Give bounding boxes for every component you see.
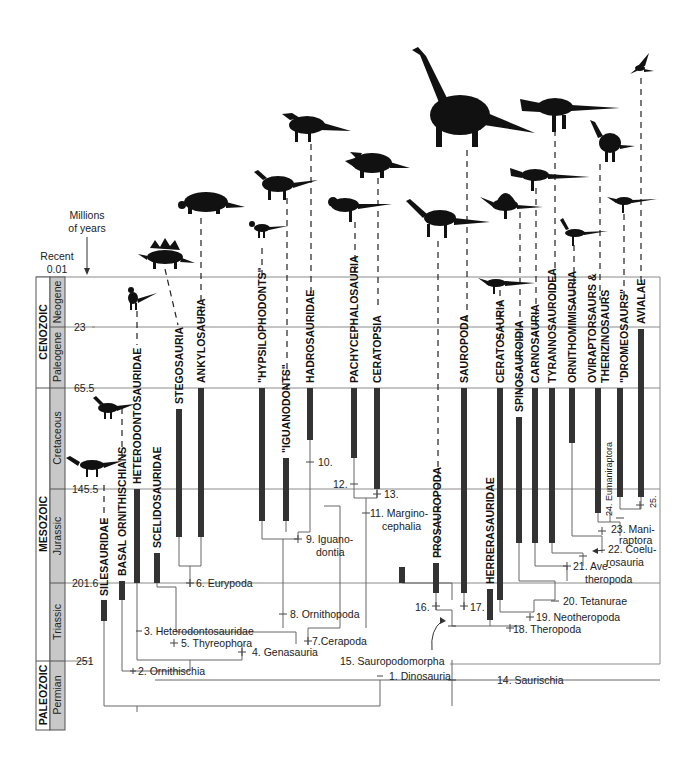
node-16: 16. [415,601,430,613]
era-mesozoic: MESOZOIC [37,496,49,552]
bar-dromeosaurs [617,388,623,497]
taxon-herrerasauridae: HERRERASAURIDAE [484,477,496,584]
dinosaur-silhouettes [66,47,657,477]
taxon-prosauropoda: PROSAUROPODA [431,467,443,558]
arrow-down-icon [84,268,90,275]
axis-units-line1: Millions [69,209,104,221]
taxon-therizinosaurs: THERIZINOSAURS [599,290,611,383]
bar-herrerasauridae [487,589,493,620]
bar-basal-sauropodomorph [399,567,405,583]
period-triassic: Triassic [51,604,63,640]
bar-hadrosauridae [307,388,313,440]
bar-avialae [638,329,644,497]
node-11-line2: cephalia [382,520,421,532]
bar-hypsilophodonts [259,388,265,521]
ankylosaur-silhouette-icon [178,192,245,214]
bar-ceratosauria [497,388,503,600]
sauropod-silhouette-icon [412,47,535,147]
node-10: 10. [318,456,333,468]
ornithomimid-silhouette-icon [560,218,608,246]
basal-ornithischian-silhouette-icon [93,396,135,419]
silesaurid-silhouette-icon [66,456,122,477]
tick-23: 23 [74,321,86,333]
dinosaur-phylogeny-diagram: CENOZOIC MESOZOIC PALEOZOIC Neogene Pale… [0,0,697,760]
axis-recent-label: Recent [40,250,73,262]
taxon-avialae: AVIALAE [635,279,647,324]
therizinosaur-silhouette-icon [590,120,635,162]
node-1: 1. Dinosauria [389,670,451,682]
bar-oviraptorsaurs [595,388,601,513]
node-8: 8. Ornithopoda [290,608,360,620]
period-cretaceous: Cretaceous [51,411,63,465]
node-11: 11. Margino- [370,507,429,519]
node-23-line2: raptora [619,534,652,546]
period-paleogene: Paleogene [51,332,63,382]
pachycephalosaur-silhouette-icon [328,197,392,222]
prosauropod-silhouette-icon [406,199,490,238]
node-24: 24. Eumaniraptora [604,442,614,516]
bar-ornithomimisauria [569,388,575,443]
taxon-sauropoda: SAUROPODA [458,314,470,383]
period-neogene: Neogene [51,281,63,324]
axis-units-line2: of years [68,222,105,234]
bird-silhouette-icon [630,53,654,74]
geologic-timescale: CENOZOIC MESOZOIC PALEOZOIC Neogene Pale… [36,277,65,730]
taxon-spinosauroidia: SPINOSAUROIDIA [513,320,525,412]
taxon-oviraptorsaurs: OVIRAPTORSAURS & [586,273,598,383]
bar-basal-ornithischians [119,581,125,600]
dromaeosaur-silhouette-icon [607,197,657,213]
node-7: 7.Cerapoda [312,635,367,647]
node-2: 2. Ornithischia [138,665,205,677]
hypsilophodont-silhouette-icon [249,221,288,238]
period-permian: Permian [51,675,63,714]
tick-201.6: 201.6 [72,577,98,589]
bar-prosauropoda [433,563,439,593]
taxon-tyrannosauroidea: TYRANNOSAUROIDEA [546,268,558,383]
taxon-stegosauria: STEGOSAURIA [173,327,185,404]
carnosaur-silhouette-icon [510,168,590,191]
node-9: 9. Iguano- [306,533,354,545]
node-21-line2: theropoda [585,573,632,585]
node-4: 4. Genasauria [252,646,318,658]
hadrosaur-silhouette-icon [282,113,351,142]
node-19: 19. Neotheropoda [536,611,620,623]
node-25: 25. [648,495,658,508]
tyrannosaur-silhouette-icon [520,98,620,132]
taxon-silesauridae: SILESAURIDAE [98,518,110,596]
taxon-pachycephalosauria: PACHYCEPHALOSAURIA [348,255,360,383]
node-15: 15. Sauropodomorpha [340,655,445,667]
tick-145.5: 145.5 [72,483,98,495]
taxon-hadrosauridae: HADROSAURIDAE [304,290,316,383]
node-5: 5. Thyreophora [181,637,252,649]
bar-tyrannosauroidea [549,388,555,543]
tick-0.01: 0.01 [47,263,68,275]
iguanodont-silhouette-icon [254,170,318,200]
bar-pachycephalosauria [351,388,357,458]
bar-spinosauroidia [516,417,522,543]
node-22-line2: rosauria [606,556,644,568]
era-cenozoic: CENOZOIC [37,304,49,360]
bar-ceratopsia [374,388,380,489]
tick-65.5: 65.5 [74,382,95,394]
bar-iguanodonts [283,458,289,521]
node-14: 14. Saurischia [497,674,564,686]
arrow-sauropodomorpha-icon [432,621,442,650]
node-labels: 1. Dinosauria 2. Ornithischia 3. Heterod… [138,442,658,686]
node-9-line2: dontia [316,546,345,558]
taxon-hypsilophodonts: "HYPSILOPHODONTS" [256,267,268,383]
bar-silesauridae [101,600,107,621]
stegosaur-silhouette-icon [138,238,195,269]
node-13: 13. [384,488,399,500]
taxon-dromeosaurs: "DROMEOSAURS" [618,289,630,383]
bar-carnosauria [532,388,538,543]
node-3: 3. Heterodontosauridae [144,625,254,637]
taxon-ceratopsia: CERATOPSIA [371,315,383,383]
node-20: 20. Tetanurae [563,595,627,607]
bar-scelidosauridae [154,553,160,583]
node-6: 6. Eurypoda [196,577,253,589]
bar-ankylosauria [198,388,204,537]
taxon-scelidosauridae: SCELIDOSAURIDAE [151,446,163,548]
taxon-iguanodonts: "IGUANODONTS" [280,364,292,453]
arrow-coelurosauria-icon [592,548,598,554]
node-17: 17. [470,601,485,613]
